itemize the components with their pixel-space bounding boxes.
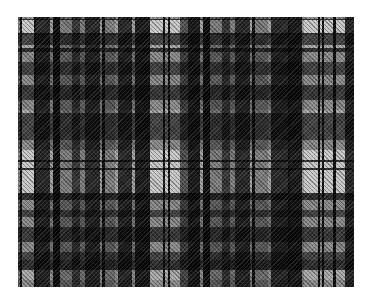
tartan-plaid-pattern (18, 17, 354, 287)
image-canvas (0, 0, 373, 305)
weave-dither-texture (18, 17, 354, 287)
